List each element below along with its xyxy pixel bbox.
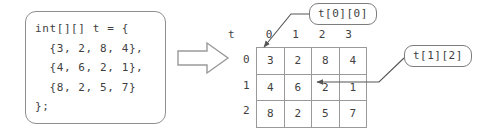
code-snippet: int[][] t = { {3, 2, 8, 4}, {4, 6, 2, 1}…: [35, 19, 143, 117]
column-header-1: 1: [283, 28, 310, 41]
array-grid-table: t 0 1 2 3 0 1 2 3 2 8 4 4 6 2 1: [228, 24, 368, 126]
cell-2-1: 2: [284, 101, 312, 128]
column-header-2: 2: [309, 28, 336, 41]
cell-2-2: 5: [312, 101, 340, 128]
column-header-3: 3: [336, 28, 363, 41]
callout-t12: t[1][2]: [404, 45, 472, 67]
cell-0-1: 2: [284, 48, 312, 75]
code-box: int[][] t = { {3, 2, 8, 4}, {4, 6, 2, 1}…: [25, 11, 166, 124]
column-header-row: 0 1 2 3: [256, 28, 362, 41]
callout-t00: t[0][0]: [309, 3, 377, 25]
array-diagram: int[][] t = { {3, 2, 8, 4}, {4, 6, 2, 1}…: [0, 0, 492, 134]
column-header-0: 0: [256, 28, 283, 41]
cell-0-3: 4: [339, 48, 367, 75]
cell-1-0: 4: [257, 74, 285, 101]
table-row: 4 6 2 1: [257, 74, 367, 101]
cell-2-0: 8: [257, 101, 285, 128]
cell-1-1: 6: [284, 74, 312, 101]
cell-0-2: 8: [312, 48, 340, 75]
cell-0-0: 3: [257, 48, 285, 75]
table-corner-label: t: [228, 28, 235, 41]
row-header-1: 1: [228, 73, 250, 99]
table-row: 3 2 8 4: [257, 48, 367, 75]
table-row: 8 2 5 7: [257, 101, 367, 128]
cell-1-3: 1: [339, 74, 367, 101]
cell-1-2: 2: [312, 74, 340, 101]
cell-2-3: 7: [339, 101, 367, 128]
row-header-2: 2: [228, 98, 250, 124]
row-header-0: 0: [228, 47, 250, 73]
block-arrow-right-icon: [176, 40, 230, 76]
grid: 3 2 8 4 4 6 2 1 8 2 5 7: [256, 47, 367, 128]
row-header-column: 0 1 2: [228, 47, 250, 124]
